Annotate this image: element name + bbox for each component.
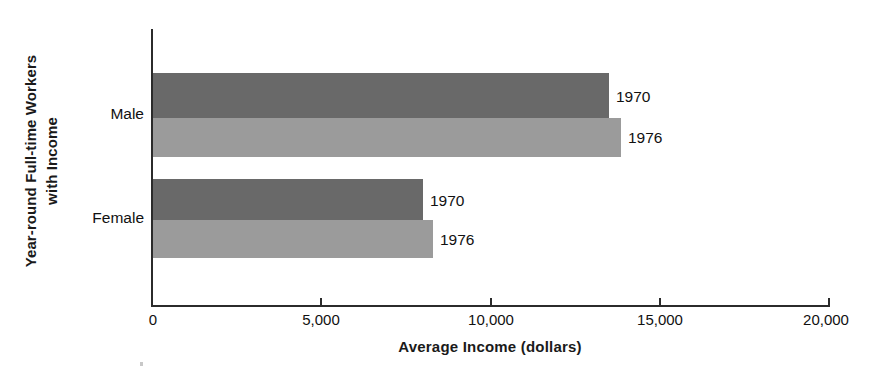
x-tick-label-20000: 20,000 — [803, 311, 849, 328]
x-tick-label-10000: 10,000 — [468, 311, 514, 328]
x-tick-10000 — [490, 298, 492, 307]
bar-label-male-1976: 1976 — [628, 129, 662, 147]
bar-female-1970 — [153, 179, 423, 220]
x-tick-label-5000: 5,000 — [302, 311, 340, 328]
scan-artifact-speck — [140, 362, 143, 366]
x-axis-title: Average Income (dollars) — [151, 338, 829, 355]
bar-label-female-1970: 1970 — [430, 192, 464, 210]
x-tick-15000 — [659, 298, 661, 307]
bar-female-1976 — [153, 220, 433, 258]
bar-male-1976 — [153, 118, 621, 157]
y-axis-line — [151, 29, 153, 307]
bar-chart: Year-round Full-time Workers with Income… — [0, 0, 876, 371]
x-tick-5000 — [320, 298, 322, 307]
x-tick-0 — [151, 298, 153, 307]
bar-label-male-1970: 1970 — [616, 88, 650, 106]
x-tick-20000 — [828, 298, 830, 307]
category-label-male: Male — [110, 105, 144, 123]
category-label-female: Female — [92, 209, 144, 227]
y-axis-title: Year-round Full-time Workers with Income — [20, 31, 64, 291]
bar-male-1970 — [153, 73, 609, 118]
x-tick-label-0: 0 — [149, 311, 157, 328]
bar-label-female-1976: 1976 — [440, 231, 474, 249]
x-tick-label-15000: 15,000 — [637, 311, 683, 328]
